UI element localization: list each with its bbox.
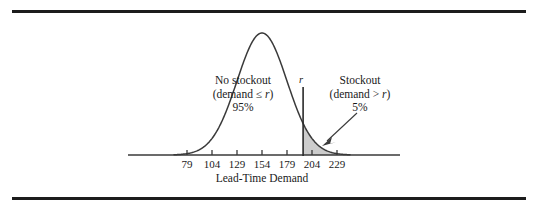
stockout-percent: 5% [300, 101, 420, 115]
stockout-condition: (demand > r) [300, 88, 420, 102]
stockout-leader-arrowhead [322, 137, 336, 146]
stockout-leader-line [327, 113, 357, 141]
no-stockout-percent: 95% [183, 101, 303, 115]
x-axis-title: Lead-Time Demand [162, 172, 362, 186]
stockout-shaded-region [303, 123, 337, 155]
no-stockout-title: No stockout [183, 74, 303, 88]
x-axis-tick-label-229: 229 [320, 158, 354, 171]
no-stockout-condition-prefix: (demand ≤ [213, 88, 265, 100]
no-stockout-condition-suffix: ) [269, 88, 273, 100]
stockout-title: Stockout [300, 74, 420, 88]
no-stockout-condition: (demand ≤ r) [183, 88, 303, 102]
figure-container: r No stockout (demand ≤ r) 95% Stockout … [0, 0, 538, 214]
stockout-condition-suffix: ) [387, 88, 391, 100]
stockout-condition-prefix: (demand > [330, 88, 382, 100]
